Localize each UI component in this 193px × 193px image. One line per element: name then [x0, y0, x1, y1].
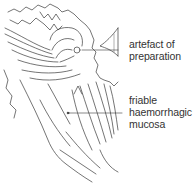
label-artefact-line2: preparation: [129, 50, 181, 62]
artefact-marker: [74, 47, 80, 53]
label-mucosa-line2: haemorrhagic: [129, 106, 192, 118]
label-mucosa: friable haemorrhagic mucosa: [129, 94, 192, 130]
label-mucosa-line3: mucosa: [129, 118, 192, 130]
label-artefact-line1: artefact of: [129, 38, 181, 50]
diagram-canvas: artefact of preparation friable haemorrh…: [0, 0, 193, 193]
label-mucosa-line1: friable: [129, 94, 192, 106]
label-artefact: artefact of preparation: [129, 38, 181, 62]
